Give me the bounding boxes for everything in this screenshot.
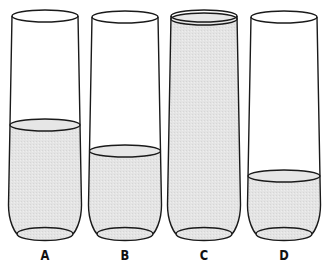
liquid-surface	[90, 145, 161, 157]
glass-rim	[251, 11, 317, 23]
glasses-illustration	[0, 0, 327, 273]
glass-label-b: B	[113, 247, 138, 263]
liquid-surface	[248, 170, 320, 182]
liquid	[168, 19, 241, 241]
glass-a	[9, 10, 82, 241]
liquid-surface	[171, 13, 237, 25]
glass-b	[89, 11, 162, 241]
glass-label-c: C	[192, 247, 217, 263]
glass-d	[248, 11, 321, 241]
glass-rim	[92, 11, 158, 23]
glass-rim	[12, 10, 78, 22]
liquid-surface	[10, 119, 80, 131]
glass-c	[168, 10, 241, 241]
glass-label-a: A	[33, 247, 58, 263]
glass-label-d: D	[272, 247, 297, 263]
glasses-diagram: A B C D	[0, 0, 327, 273]
liquid	[9, 125, 82, 241]
